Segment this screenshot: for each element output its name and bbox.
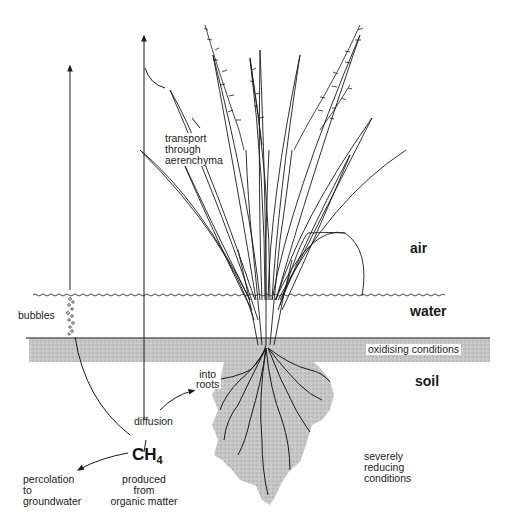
severely-reducing-conditions-label: severely reducing conditions (364, 451, 411, 484)
percolation-arrow (80, 453, 128, 469)
oxidising-conditions-label: oxidising conditions (366, 344, 461, 355)
water-surface-line (33, 294, 445, 296)
zone-label-water: water (410, 303, 447, 319)
into-roots-arrow (160, 391, 192, 410)
percolation-label: percolation to groundwater (23, 474, 81, 507)
into-roots-label: into roots (194, 369, 221, 389)
rice-plant (140, 35, 406, 345)
zone-label-soil: soil (415, 373, 439, 389)
transport-label: transport through aerenchyma (163, 133, 225, 166)
produced-from-organic-matter-label: produced from organic matter (104, 474, 184, 507)
zone-label-air: air (410, 240, 427, 256)
bubbles-label: bubbles (18, 310, 55, 321)
rice-panicles (204, 25, 363, 150)
transport-label-leader (192, 118, 200, 128)
aerenchyma-transport-curve (145, 68, 165, 88)
diagram-canvas (0, 0, 507, 523)
bubbles-icon (67, 298, 75, 336)
methane-label: CH4 (132, 445, 163, 466)
diffusion-label: diffusion (134, 416, 173, 427)
